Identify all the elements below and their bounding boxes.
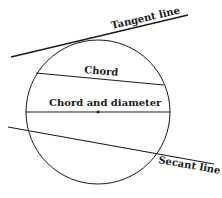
secant-label: Secant line <box>158 154 222 176</box>
tangent-label: Tangent line <box>110 4 181 31</box>
diameter-label: Chord and diameter <box>49 97 162 108</box>
center-point <box>97 111 100 114</box>
tangent-line <box>11 15 188 57</box>
chord-label: Chord <box>84 64 119 78</box>
circle-diagram: Tangent line Chord Chord and diameter Se… <box>0 0 222 198</box>
